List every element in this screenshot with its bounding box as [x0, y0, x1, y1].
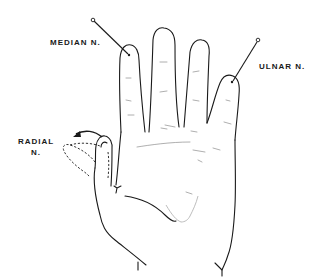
palm-ulnar-edge: [222, 140, 235, 270]
ulnar-pin-head: [256, 38, 260, 42]
wrist-crease-right: [215, 263, 222, 276]
ulnar-nerve-label: ULNAR N.: [259, 62, 305, 72]
thumb-dashed-inner: [108, 152, 109, 178]
thenar-line: [114, 186, 121, 193]
little-finger-outline: [207, 75, 239, 140]
palm-radial-edge: [116, 132, 121, 185]
thumb-outline: [95, 136, 112, 186]
ulnar-pin-shaft: [233, 42, 257, 81]
thumb-dashed-top: [70, 143, 100, 146]
palm-lower-crease: [166, 196, 198, 222]
radial-nerve-label-line1: RADIAL: [16, 137, 56, 147]
median-nerve-label: MEDIAN N.: [50, 38, 101, 48]
thumb-inner-edge: [94, 168, 146, 265]
ring-finger-outline: [184, 40, 209, 127]
hand-diagram: MEDIAN N. ULNAR N. RADIAL N.: [0, 0, 321, 277]
radial-arrowhead: [73, 131, 81, 137]
thumb-nail: [101, 142, 107, 147]
radial-nerve-label-line2: N.: [16, 148, 56, 158]
index-finger-outline: [120, 45, 145, 132]
middle-finger-outline: [149, 28, 179, 132]
ulnar-pin-tip: [231, 81, 233, 83]
median-pin-tip: [128, 54, 130, 56]
thumb-dashed-outline: [63, 144, 95, 177]
median-pin-head: [91, 18, 95, 22]
